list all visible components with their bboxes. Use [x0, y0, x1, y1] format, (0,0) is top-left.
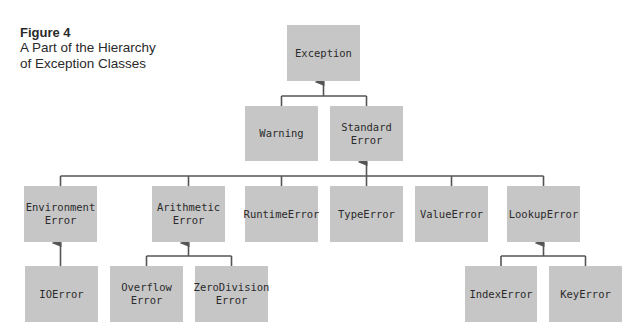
node-arithmetic-error: Arithmetic Error: [152, 186, 225, 242]
node-index-error: IndexError: [465, 266, 537, 322]
node-runtime-error: RuntimeError: [245, 186, 318, 242]
node-value-error: ValueError: [415, 186, 488, 242]
node-standard-error: Standard Error: [330, 106, 403, 161]
node-overflow-error: Overflow Error: [110, 266, 183, 322]
node-io-error: IOError: [25, 266, 98, 322]
node-warning: Warning: [245, 106, 318, 161]
node-type-error: TypeError: [330, 186, 403, 242]
node-zero-division-error: ZeroDivision Error: [195, 266, 268, 322]
node-exception: Exception: [287, 25, 360, 81]
node-lookup-error: LookupError: [507, 186, 580, 242]
node-key-error: KeyError: [549, 266, 622, 322]
node-environment-error: Environment Error: [24, 186, 97, 242]
